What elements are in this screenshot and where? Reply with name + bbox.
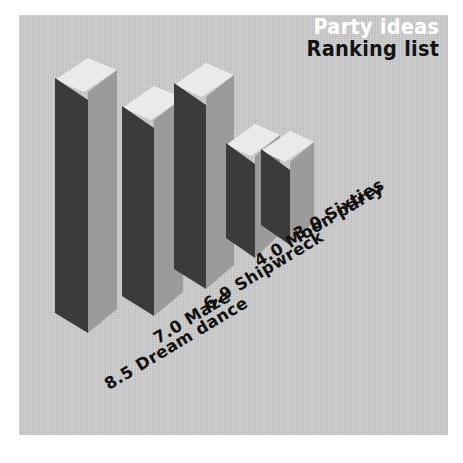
chart-figure: Party ideas Ranking list 8.5Dream dance … (0, 0, 463, 463)
bar-front-face (122, 106, 154, 316)
bar-side-face (84, 70, 117, 333)
chart-title-line-2: Ranking list (306, 38, 439, 60)
chart-title-line-1: Party ideas (306, 16, 439, 38)
bar-front-face (226, 143, 255, 258)
bar-front-face (55, 78, 88, 333)
chart-title: Party ideas Ranking list (306, 16, 439, 60)
bar-front-face (174, 83, 206, 289)
bar-front-face (261, 149, 290, 245)
